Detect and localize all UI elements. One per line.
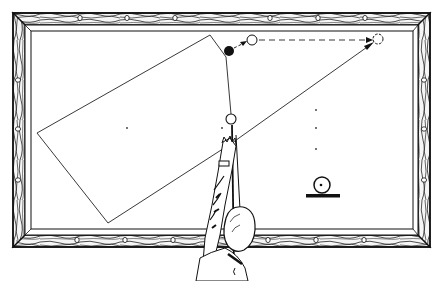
cue-ball bbox=[226, 114, 236, 124]
billiards-illustration bbox=[0, 0, 441, 281]
billiards-table-diagram bbox=[0, 0, 441, 281]
ghost-ball bbox=[373, 34, 383, 44]
object-ball bbox=[224, 46, 234, 56]
contact-ball bbox=[247, 35, 257, 45]
